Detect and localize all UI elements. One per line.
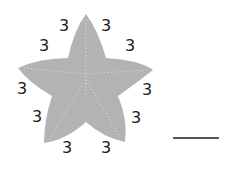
side-length-label: 3 (140, 81, 154, 99)
star-figure: 3 3 3 3 3 3 3 3 3 3 (0, 0, 226, 169)
side-length-label: 3 (15, 80, 29, 98)
side-length-label: 3 (37, 37, 51, 55)
star-shape-icon (0, 0, 226, 169)
side-length-label: 3 (30, 108, 44, 126)
side-length-label: 3 (99, 139, 113, 157)
answer-blank-line[interactable] (173, 137, 219, 139)
side-length-label: 3 (60, 139, 74, 157)
side-length-label: 3 (99, 17, 113, 35)
side-length-label: 3 (129, 109, 143, 127)
side-length-label: 3 (123, 37, 137, 55)
side-length-label: 3 (57, 17, 71, 35)
